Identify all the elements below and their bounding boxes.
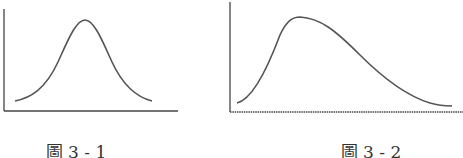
figure-3-1-caption: 圖 3 - 1 — [46, 138, 107, 158]
figures-canvas — [0, 0, 463, 158]
figure-3-1 — [4, 9, 178, 111]
bell-curve — [15, 20, 152, 101]
skewed-curve — [237, 17, 452, 106]
figure-3-2 — [230, 2, 463, 112]
figure-3-2-caption: 圖 3 - 2 — [341, 138, 402, 158]
